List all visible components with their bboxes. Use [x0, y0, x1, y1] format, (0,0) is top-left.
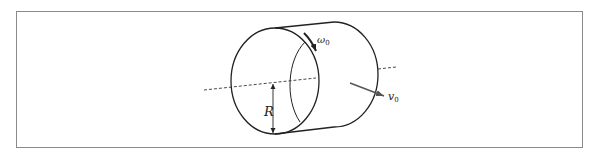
cylinder-diagram: R ω0 v0	[0, 0, 599, 157]
angular-velocity-label: ω0	[317, 34, 330, 47]
velocity-label: v0	[388, 90, 399, 104]
axis-dashed-line-right	[378, 67, 396, 69]
cylinder-front-rim	[231, 28, 319, 134]
cylinder-back-rim	[334, 22, 378, 127]
radius-label: R	[263, 104, 274, 119]
velocity-arrow	[350, 83, 384, 96]
axis-dashed-line-left	[204, 78, 316, 90]
cylinder-inner-arc	[290, 42, 305, 122]
cylinder-top-edge	[275, 22, 334, 28]
